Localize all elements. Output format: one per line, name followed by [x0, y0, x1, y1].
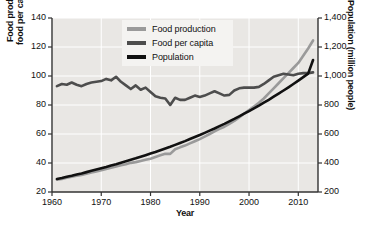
legend-item: Food per capita — [127, 36, 233, 50]
chart-figure: 20406080100120140 2004006008001,0001,200… — [0, 0, 374, 225]
legend-item: Population — [127, 50, 233, 64]
y-axis-left-tick-label: 60 — [20, 128, 46, 138]
y-axis-left-tick-label: 80 — [20, 99, 46, 109]
legend-item-label: Food per capita — [152, 38, 213, 48]
y-axis-left-tick-label: 100 — [20, 70, 46, 80]
y-axis-left-title-line2: food per capita (index) — [15, 0, 26, 45]
x-axis-tick-label: 2000 — [229, 197, 269, 207]
legend-swatch-icon — [127, 55, 146, 59]
legend-item: Food production — [127, 22, 233, 36]
x-axis-title: Year — [52, 208, 318, 218]
y-axis-right-tick-label: 400 — [324, 157, 354, 167]
x-axis-tick-label: 1980 — [131, 197, 171, 207]
y-axis-left-tick-label: 20 — [20, 186, 46, 196]
y-axis-left-tick-label: 40 — [20, 157, 46, 167]
y-axis-right-tick-label: 600 — [324, 128, 354, 138]
y-axis-right-title: Population (million people) — [343, 0, 357, 121]
x-axis-tick-label: 1960 — [32, 197, 72, 207]
y-axis-left-title-line1: Food production and — [5, 0, 16, 42]
x-axis-tick-label: 1970 — [81, 197, 121, 207]
y-axis-left-title: Food production and food per capita (ind… — [3, 0, 27, 69]
x-axis-tick-label: 2010 — [278, 197, 318, 207]
legend-item-label: Food production — [152, 24, 216, 34]
legend-item-label: Population — [152, 52, 194, 62]
legend-swatch-icon — [127, 27, 146, 31]
y-axis-right-tick-label: 200 — [324, 186, 354, 196]
legend-swatch-icon — [127, 41, 146, 45]
x-axis-tick-label: 1990 — [180, 197, 220, 207]
chart-legend: Food productionFood per capitaPopulation — [122, 20, 233, 66]
